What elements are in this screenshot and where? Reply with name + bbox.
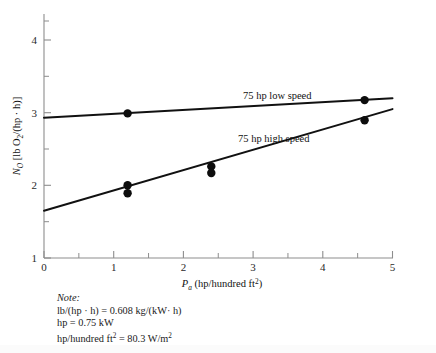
x-tick-label-2: 2	[181, 261, 187, 273]
note-line-2: hp = 0.75 kW	[57, 317, 181, 330]
y-tick-label-3: 3	[32, 107, 38, 119]
x-tick-label-3: 3	[250, 261, 256, 273]
x-axis-title: Pa (hp/hundred ft2)	[181, 277, 263, 292]
y-tick-label-1: 1	[32, 252, 38, 264]
note-title: Note:	[57, 292, 181, 305]
note-block: Note: lb/(hp · h) = 0.608 kg/(kW· h) hp …	[57, 292, 181, 346]
svg-text:NO [lb O2/(hp · h)]: NO [lb O2/(hp · h)]	[11, 97, 25, 176]
bottom-band	[0, 345, 436, 353]
y-axis-title-close: /(hp · h)]	[11, 97, 23, 135]
y-tick-label-2: 2	[32, 179, 38, 191]
note-line-1: lb/(hp · h) = 0.608 kg/(kW· h)	[57, 305, 181, 318]
x-tick-label-0: 0	[41, 261, 47, 273]
series-points-high-speed	[123, 116, 368, 197]
series-label-high-speed: 75 hp high speed	[238, 133, 310, 144]
x-tick-label-5: 5	[390, 261, 396, 273]
y-axis-title-open: [lb O	[11, 138, 22, 163]
series-line-high-speed	[44, 109, 393, 211]
x-tick-label-1: 1	[111, 261, 117, 273]
note-line-3-sup2: 2	[168, 332, 172, 340]
series-line-low-speed	[44, 98, 393, 118]
series-label-low-speed: 75 hp low speed	[243, 90, 312, 101]
y-axis-ticks	[44, 21, 51, 258]
x-tick-label-4: 4	[320, 261, 326, 273]
note-line-3-b: = 80.3 W/m	[116, 333, 168, 344]
note-line-3-a: hp/hundred ft	[57, 333, 113, 344]
x-axis-title-rest: (hp/hundred ft	[192, 278, 255, 290]
y-tick-label-4: 4	[32, 34, 38, 46]
note-line-3: hp/hundred ft2 = 80.3 W/m2	[57, 330, 181, 346]
x-axis-title-tail: )	[259, 278, 263, 290]
y-axis-title: NO [lb O2/(hp · h)]	[11, 97, 25, 176]
x-axis-ticks	[44, 251, 393, 258]
